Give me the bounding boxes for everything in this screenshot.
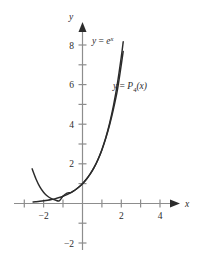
y-tick-label: 4: [69, 120, 74, 130]
y-axis-label: y: [68, 12, 74, 22]
x-axis-label: x: [184, 199, 190, 209]
x-tick-label: −2: [39, 211, 49, 221]
taylor-polynomial-curve-label: y = P4(x): [112, 81, 147, 93]
figure-container: −2 2 4 8 6 4 2 −2 y x y = ex y = P4(x): [0, 0, 199, 267]
y-tick-label: 2: [69, 159, 74, 169]
y-tick-label: 8: [69, 41, 74, 51]
y-tick-label: −2: [64, 239, 74, 249]
curves-group: [32, 42, 123, 202]
x-axis-arrowhead: [170, 200, 180, 208]
y-tick-label: 6: [69, 80, 74, 90]
x-tick-label: 4: [158, 211, 163, 221]
y-tick-labels: 8 6 4 2 −2: [64, 41, 74, 249]
exponential-curve-label: y = ex: [91, 35, 114, 46]
x-tick-label: 2: [119, 211, 124, 221]
taylor-polynomial-curve-path: [32, 51, 123, 201]
x-tick-labels: −2 2 4: [39, 211, 163, 221]
y-axis-arrowhead: [79, 22, 87, 32]
plot-svg: −2 2 4 8 6 4 2 −2 y x y = ex y = P4(x): [0, 0, 199, 267]
